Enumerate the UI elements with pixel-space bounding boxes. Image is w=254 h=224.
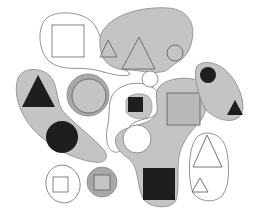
gray-circle (72, 79, 106, 113)
hollow-square-small (53, 177, 68, 192)
black-square-small (128, 97, 143, 112)
euler-diagram (0, 0, 254, 224)
gray-square-small (94, 175, 110, 190)
gray-square-large (167, 93, 200, 125)
black-square-large (143, 168, 175, 200)
small-white-circle (142, 71, 158, 87)
black-circle (46, 121, 78, 153)
black-circle-small (200, 67, 216, 83)
white-circle-center (123, 125, 151, 153)
hollow-square (52, 25, 84, 57)
diagram-canvas (0, 0, 254, 224)
top-center-gray-blob (100, 8, 193, 73)
